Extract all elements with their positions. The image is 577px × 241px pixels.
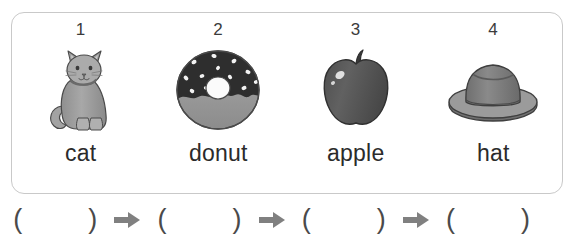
answer-blank-1[interactable]: ( ) (0, 198, 110, 241)
close-paren: ) (232, 206, 241, 233)
answer-row: ( ) ( ) ( ) (0, 198, 577, 241)
item-word: cat (65, 142, 96, 165)
apple-illustration (287, 44, 425, 136)
picture-items-row: 1 (12, 13, 562, 193)
picture-item-donut: 2 (150, 13, 288, 193)
donut-illustration (150, 44, 288, 136)
item-word: hat (477, 142, 510, 165)
picture-card: 1 (11, 12, 563, 194)
item-number: 4 (488, 21, 498, 41)
picture-item-cat: 1 (12, 13, 150, 193)
right-arrow-icon-2 (255, 198, 289, 241)
answer-blank-3[interactable]: ( ) (289, 198, 399, 241)
item-number: 1 (76, 21, 86, 41)
close-paren: ) (377, 206, 386, 233)
open-paren: ( (157, 206, 166, 233)
hat-illustration (425, 44, 563, 136)
open-paren: ( (446, 206, 455, 233)
close-paren: ) (88, 206, 97, 233)
answer-blank-4[interactable]: ( ) (433, 198, 543, 241)
right-arrow-icon-3 (399, 198, 433, 241)
item-number: 2 (213, 21, 223, 41)
cat-illustration (12, 44, 150, 136)
answer-blank-2[interactable]: ( ) (144, 198, 254, 241)
close-paren: ) (521, 206, 530, 233)
open-paren: ( (13, 206, 22, 233)
picture-item-apple: 3 (287, 13, 425, 193)
item-word: donut (189, 142, 248, 165)
picture-item-hat: 4 (425, 13, 563, 193)
worksheet-page: 1 (0, 0, 577, 241)
item-word: apple (327, 142, 384, 165)
open-paren: ( (302, 206, 311, 233)
right-arrow-icon-1 (110, 198, 144, 241)
item-number: 3 (351, 21, 361, 41)
